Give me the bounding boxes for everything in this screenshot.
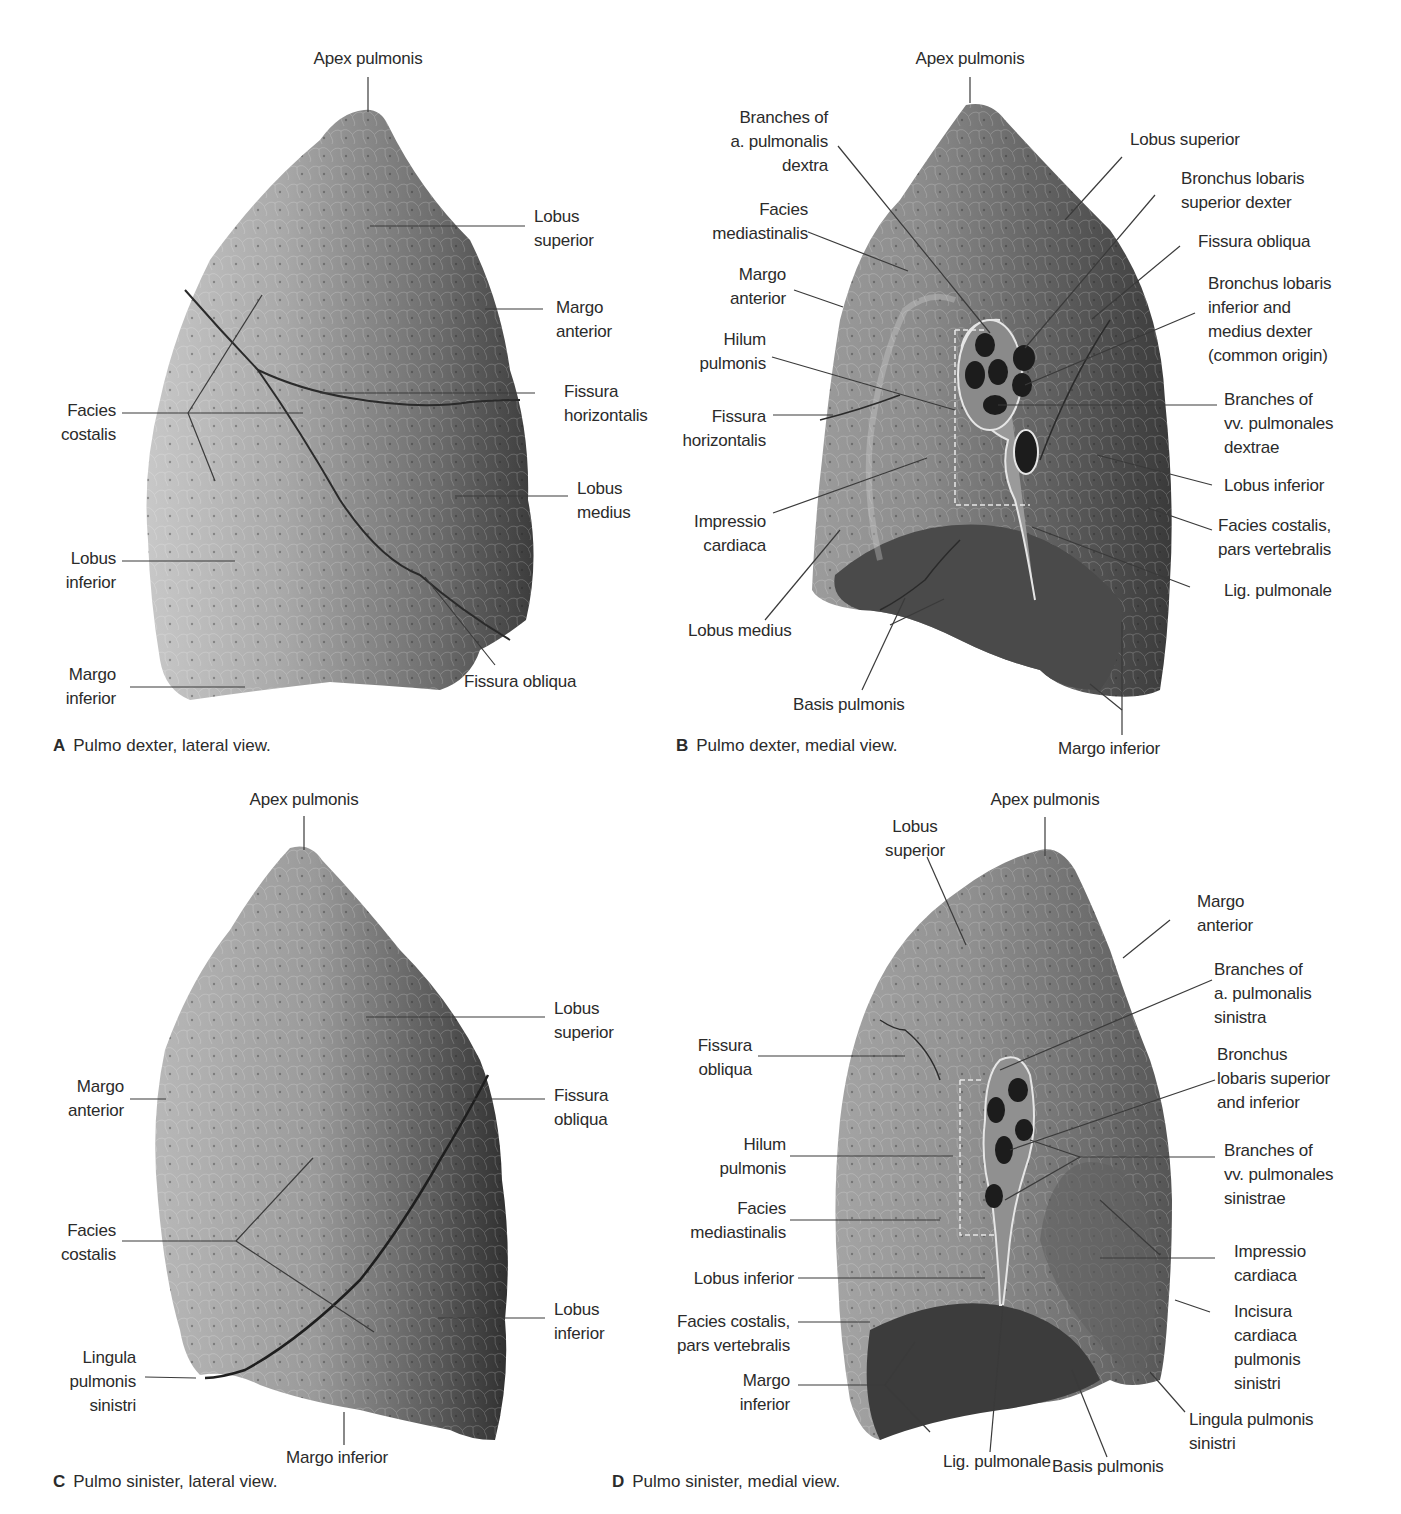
label-d-basis-pulmonis: Basis pulmonis <box>1052 1455 1164 1479</box>
caption-a-text: Pulmo dexter, lateral view. <box>73 736 270 755</box>
label-b-fissura-obliqua: Fissura obliqua <box>1198 230 1310 254</box>
label-a-fissura-obliqua: Fissura obliqua <box>464 670 576 694</box>
label-b-margo-inferior: Margo inferior <box>1058 737 1160 761</box>
label-c-lobus-superior: Lobus superior <box>554 997 614 1045</box>
label-c-facies-costalis: Facies costalis <box>40 1219 116 1267</box>
label-a-lobus-medius: Lobus medius <box>577 477 631 525</box>
label-b-bronchus-superior: Bronchus lobaris superior dexter <box>1181 167 1304 215</box>
label-c-lobus-inferior: Lobus inferior <box>554 1298 604 1346</box>
lung-d-left-medial <box>835 849 1172 1440</box>
caption-b-letter: B <box>676 736 688 755</box>
label-a-fissura-horizontalis: Fissura horizontalis <box>564 380 648 428</box>
caption-c-letter: C <box>53 1472 65 1491</box>
lung-c-left-lateral <box>155 847 508 1441</box>
label-b-facies-costalis-vert: Facies costalis, pars vertebralis <box>1218 514 1331 562</box>
caption-c: CPulmo sinister, lateral view. <box>53 1472 277 1492</box>
label-d-lig-pulmonale: Lig. pulmonale <box>943 1450 1051 1474</box>
label-c-fissura-obliqua: Fissura obliqua <box>554 1084 608 1132</box>
label-a-margo-inferior: Margo inferior <box>40 663 116 711</box>
label-c-apex-pulmonis: Apex pulmonis <box>236 788 372 812</box>
label-b-hilum-pulmonis: Hilum pulmonis <box>660 328 766 376</box>
caption-d-letter: D <box>612 1472 624 1491</box>
label-b-margo-anterior: Margo anterior <box>680 263 786 311</box>
caption-b: BPulmo dexter, medial view. <box>676 736 898 756</box>
lung-b-right-medial <box>812 104 1172 697</box>
label-c-margo-anterior: Margo anterior <box>40 1075 124 1123</box>
label-b-fissura-horizontalis: Fissura horizontalis <box>660 405 766 453</box>
label-a-lobus-inferior: Lobus inferior <box>40 547 116 595</box>
caption-c-text: Pulmo sinister, lateral view. <box>73 1472 277 1491</box>
caption-b-text: Pulmo dexter, medial view. <box>696 736 897 755</box>
label-d-lingula: Lingula pulmonis sinistri <box>1189 1408 1313 1456</box>
label-d-branches-a-pulmonalis: Branches of a. pulmonalis sinistra <box>1214 958 1312 1030</box>
caption-a: APulmo dexter, lateral view. <box>53 736 271 756</box>
caption-d: DPulmo sinister, medial view. <box>612 1472 840 1492</box>
label-d-facies-costalis-vert: Facies costalis, pars vertebralis <box>640 1310 790 1358</box>
label-d-margo-anterior: Margo anterior <box>1197 890 1253 938</box>
label-a-margo-anterior: Margo anterior <box>556 296 612 344</box>
label-b-lig-pulmonale: Lig. pulmonale <box>1224 579 1332 603</box>
label-b-lobus-superior: Lobus superior <box>1130 128 1240 152</box>
label-c-margo-inferior: Margo inferior <box>286 1446 388 1470</box>
label-b-branches-vv-pulmonales: Branches of vv. pulmonales dextrae <box>1224 388 1333 460</box>
label-d-apex-pulmonis: Apex pulmonis <box>977 788 1113 812</box>
caption-a-letter: A <box>53 736 65 755</box>
label-d-fissura-obliqua: Fissura obliqua <box>660 1034 752 1082</box>
label-d-incisura-cardiaca: Incisura cardiaca pulmonis sinistri <box>1234 1300 1300 1396</box>
label-c-lingula: Lingula pulmonis sinistri <box>40 1346 136 1418</box>
label-b-facies-mediastinalis: Facies mediastinalis <box>680 198 808 246</box>
label-a-apex-pulmonis: Apex pulmonis <box>300 47 436 71</box>
label-b-impressio-cardiaca: Impressio cardiaca <box>660 510 766 558</box>
label-a-facies-costalis: Facies costalis <box>40 399 116 447</box>
lung-a-right-lateral <box>147 110 534 700</box>
label-a-lobus-superior: Lobus superior <box>534 205 594 253</box>
label-b-lobus-medius: Lobus medius <box>688 619 791 643</box>
label-b-apex-pulmonis: Apex pulmonis <box>902 47 1038 71</box>
label-d-impressio-cardiaca: Impressio cardiaca <box>1234 1240 1306 1288</box>
label-b-lobus-inferior: Lobus inferior <box>1224 474 1324 498</box>
label-d-lobus-inferior: Lobus inferior <box>660 1267 794 1291</box>
label-d-bronchus: Bronchus lobaris superior and inferior <box>1217 1043 1330 1115</box>
label-d-margo-inferior: Margo inferior <box>660 1369 790 1417</box>
label-b-branches-a-pulmonalis: Branches of a. pulmonalis dextra <box>680 106 828 178</box>
caption-d-text: Pulmo sinister, medial view. <box>632 1472 840 1491</box>
label-d-lobus-superior: Lobus superior <box>875 815 955 863</box>
label-d-branches-vv-pulmonales: Branches of vv. pulmonales sinistrae <box>1224 1139 1333 1211</box>
label-b-basis-pulmonis: Basis pulmonis <box>793 693 905 717</box>
label-b-bronchus-inferior-medius: Bronchus lobaris inferior and medius dex… <box>1208 272 1331 368</box>
label-d-hilum-pulmonis: Hilum pulmonis <box>660 1133 786 1181</box>
label-d-facies-mediastinalis: Facies mediastinalis <box>660 1197 786 1245</box>
